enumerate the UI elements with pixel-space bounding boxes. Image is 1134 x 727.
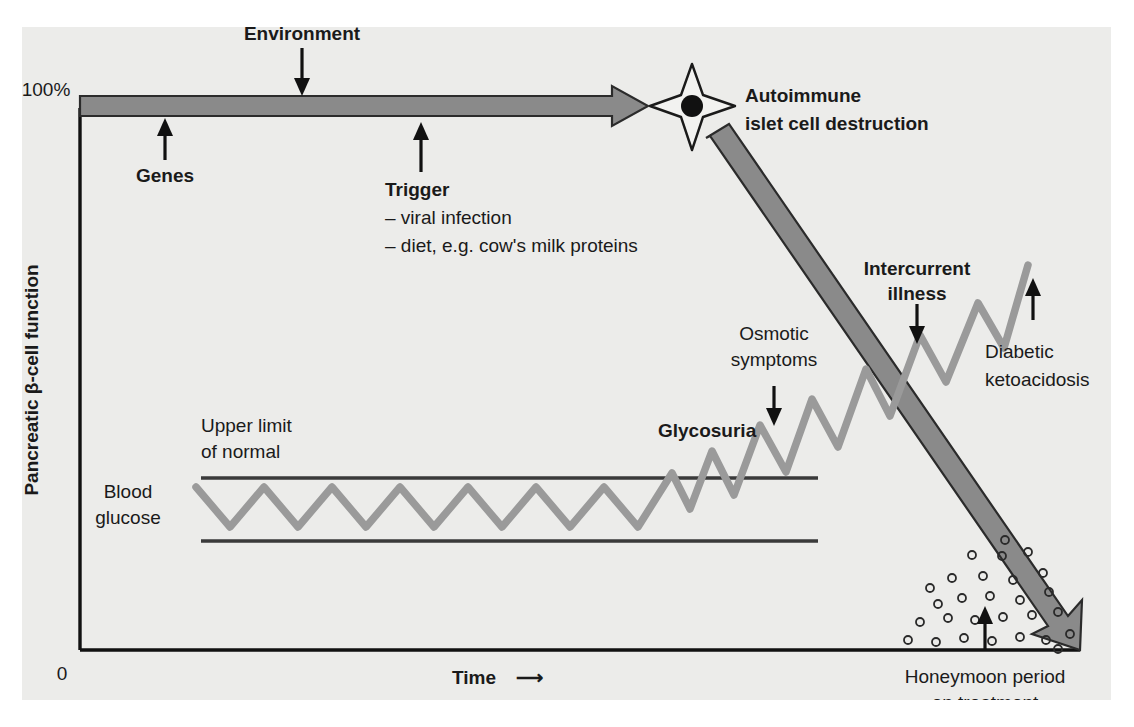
diabetic-ketoacidosis-label-line1: Diabetic [985,341,1054,362]
blood-glucose-label-line2: glucose [95,507,161,528]
autoimmune-label-line1: Autoimmune [745,85,861,106]
trigger-item-viral-infection: – viral infection [385,207,512,228]
upper-limit-label-line1: Upper limit [201,415,293,436]
blood-glucose-label-line1: Blood [104,481,153,502]
y-axis-label: Pancreatic β-cell function [21,264,42,495]
genes-arrow [157,118,173,160]
reference-lines-group [201,478,818,541]
intercurrent-illness-label-line1: Intercurrent [864,258,971,279]
osmotic-symptoms-arrow [766,386,782,426]
trigger-arrow [413,122,429,172]
autoimmune-label-line2: islet cell destruction [745,113,929,134]
intercurrent-illness-label-line2: illness [887,283,946,304]
annotation-arrows-group [157,48,1041,650]
upper-limit-label-line2: of normal [201,441,280,462]
environment-label: Environment [244,23,361,44]
diabetic-ketoacidosis-arrow [1025,278,1041,320]
genes-label: Genes [136,165,194,186]
y-tick-0-label: 0 [57,663,68,684]
glycosuria-label: Glycosuria [658,420,757,441]
honeymoon-label-line1: Honeymoon period [905,666,1066,687]
x-axis-arrow-icon: ⟶ [516,667,543,688]
trigger-item-diet: – diet, e.g. cow's milk proteins [385,235,638,256]
diagram-svg: 100% 0 Pancreatic β-cell function Time ⟶… [0,0,1134,727]
osmotic-symptoms-label-line1: Osmotic [739,323,809,344]
osmotic-symptoms-label-line2: symptoms [731,349,818,370]
starburst-center-dot [681,95,703,117]
honeymoon-label-line2: on treatment [932,692,1039,713]
x-axis-label: Time [452,667,496,688]
trigger-title-label: Trigger [385,179,450,200]
axes-group [80,108,1080,650]
honeymoon-arrow [977,606,993,650]
diabetic-ketoacidosis-label-line2: ketoacidosis [985,369,1090,390]
figure-root: 100% 0 Pancreatic β-cell function Time ⟶… [0,0,1134,727]
environment-arrow [294,48,310,96]
y-tick-100-label: 100% [22,79,71,100]
